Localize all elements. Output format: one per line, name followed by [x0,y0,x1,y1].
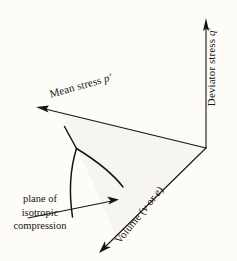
annotation-line-2: isotropic [4,206,76,220]
deviator-stress-axis-label: Deviator stress q′ [205,28,217,106]
annotation-line-3: compression [4,219,76,233]
state-space-diagram: Deviator stress q′ Mean stress p′ Volume… [0,0,237,261]
isotropic-compression-annotation: plane of isotropic compression [4,192,76,233]
deviator-stress-label-text: Deviator stress [205,36,217,106]
annotation-line-1: plane of [4,192,76,206]
deviator-stress-label-symbol: q′ [205,28,217,36]
